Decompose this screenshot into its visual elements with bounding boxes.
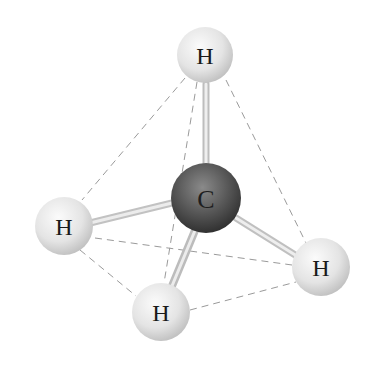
bond-c-left-hl <box>90 203 172 223</box>
bond-c-bottom-hl <box>172 228 196 286</box>
atom-label: H <box>196 43 213 69</box>
atom-h-right: H <box>292 238 350 296</box>
edge-top-left <box>82 78 185 200</box>
edge-bottom-right <box>190 282 296 310</box>
atom-h-bottom: H <box>132 283 190 341</box>
atom-label: H <box>55 214 72 240</box>
atom-label: H <box>312 255 329 281</box>
atom-h-left: H <box>35 197 93 255</box>
atom-carbon: C <box>171 163 241 233</box>
methane-diagram: H C H H H <box>0 0 374 368</box>
atom-h-top: H <box>177 27 233 83</box>
atom-label: H <box>152 300 169 326</box>
edge-left-bottom <box>80 250 136 296</box>
bond-c-right-hl <box>236 218 300 258</box>
atom-label: C <box>197 185 214 214</box>
